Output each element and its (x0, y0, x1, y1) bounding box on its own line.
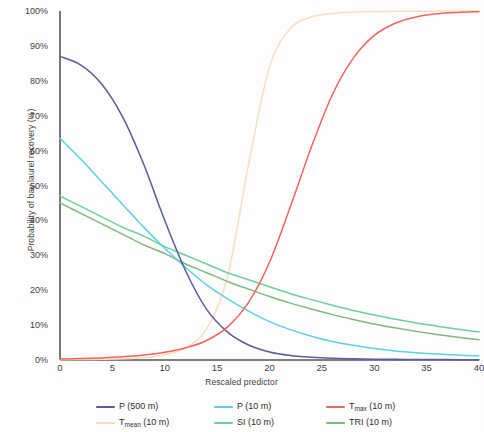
x-axis-label: Rescaled predictor (0, 377, 483, 387)
legend-item[interactable]: Tmean (10 m) (96, 418, 214, 427)
x-tick-label: 35 (421, 362, 432, 373)
legend-label: Tmean (10 m) (119, 418, 169, 427)
legend-swatch-icon (326, 406, 345, 408)
legend-label: TRI (10 m) (349, 418, 392, 427)
legend-swatch-icon (96, 422, 115, 424)
x-tick-label: 5 (110, 362, 115, 373)
curve-p-500-m (60, 56, 479, 359)
x-tick-label: 25 (317, 362, 328, 373)
legend-item[interactable]: P (10 m) (214, 402, 326, 411)
legend-label: SI (10 m) (237, 418, 274, 427)
x-tick-label: 20 (264, 362, 275, 373)
legend-item[interactable]: TRI (10 m) (326, 418, 451, 427)
x-tick-label: 15 (212, 362, 223, 373)
curve-tri-10-m (60, 203, 479, 340)
curve-group (60, 11, 479, 360)
x-tick-label: 0 (57, 362, 62, 373)
legend-label: Tmax (10 m) (349, 402, 395, 411)
legend-item[interactable]: P (500 m) (96, 402, 214, 411)
legend-swatch-icon (214, 422, 233, 424)
legend-label: P (10 m) (237, 402, 271, 411)
curve-tmean-10-m (60, 11, 479, 360)
chart-legend: P (500 m)P (10 m)Tmax (10 m)Tmean (10 m)… (96, 399, 466, 430)
axis-lines (60, 11, 479, 360)
x-axis-tick-labels: 0510152025303540 (0, 362, 483, 378)
x-tick-label: 30 (369, 362, 380, 373)
legend-swatch-icon (96, 406, 115, 408)
legend-item[interactable]: SI (10 m) (214, 418, 326, 427)
curve-tmax-10-m (60, 12, 479, 359)
legend-swatch-icon (326, 422, 345, 424)
x-tick-label: 40 (474, 362, 484, 373)
x-tick-label: 10 (159, 362, 170, 373)
legend-item[interactable]: Tmax (10 m) (326, 402, 451, 411)
legend-swatch-icon (214, 406, 233, 408)
legend-label: P (500 m) (119, 402, 158, 411)
